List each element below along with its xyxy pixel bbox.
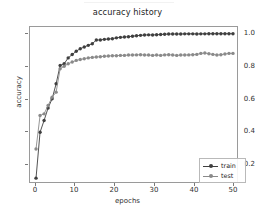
data-point-test xyxy=(155,53,158,56)
data-point-train xyxy=(99,38,102,41)
legend-item-train[interactable]: train xyxy=(203,161,242,171)
data-point-train xyxy=(147,33,150,36)
data-point-test xyxy=(135,53,138,56)
data-point-test xyxy=(95,55,98,58)
data-point-test xyxy=(42,112,45,115)
legend-item-test[interactable]: test xyxy=(203,171,242,181)
chart-figure: accuracy history 1.0 0.8 0.6 0.4 0.2 0 1… xyxy=(0,0,255,218)
data-point-test xyxy=(143,53,146,56)
xtick-label: 40 xyxy=(190,186,199,194)
data-point-train xyxy=(127,35,130,38)
data-point-test xyxy=(115,54,118,57)
data-point-test xyxy=(34,147,37,150)
data-point-train xyxy=(87,44,90,47)
data-point-train xyxy=(191,32,194,35)
data-point-train xyxy=(163,32,166,35)
ytick-label: 0.4 xyxy=(231,127,255,135)
data-point-train xyxy=(95,38,98,41)
data-point-train xyxy=(71,53,74,56)
data-point-test xyxy=(183,53,186,56)
data-point-test xyxy=(79,58,82,61)
data-point-test xyxy=(215,53,218,56)
data-point-train xyxy=(91,42,94,45)
data-point-train xyxy=(135,34,138,37)
data-point-train xyxy=(107,37,110,40)
xtick-label: 30 xyxy=(150,186,159,194)
data-point-test xyxy=(167,53,170,56)
data-point-test xyxy=(83,57,86,60)
legend-marker-test-icon xyxy=(203,171,218,181)
data-point-test xyxy=(147,53,150,56)
data-point-train xyxy=(123,35,126,38)
data-point-test xyxy=(103,55,106,58)
top-edge-artifact xyxy=(84,0,174,5)
ytick-label: 0.6 xyxy=(231,95,255,103)
data-point-train xyxy=(79,47,82,50)
data-point-train xyxy=(219,32,222,35)
data-point-test xyxy=(119,54,122,57)
data-point-train xyxy=(38,131,41,134)
xtick-label: 10 xyxy=(70,186,79,194)
xtick-mark xyxy=(233,183,234,186)
data-point-test xyxy=(75,59,78,62)
data-point-test xyxy=(123,54,126,57)
data-point-test xyxy=(231,52,234,55)
data-point-test xyxy=(223,52,226,55)
data-point-train xyxy=(171,32,174,35)
data-point-test xyxy=(107,54,110,57)
ytick-mark xyxy=(25,164,28,165)
data-point-test xyxy=(91,56,94,59)
data-point-test xyxy=(38,114,41,117)
data-point-test xyxy=(99,55,102,58)
y-axis-label: accuracy xyxy=(15,57,23,127)
legend-label-test: test xyxy=(221,171,233,181)
data-point-train xyxy=(203,32,206,35)
data-point-train xyxy=(207,32,210,35)
data-point-test xyxy=(203,51,206,54)
data-point-train xyxy=(103,38,106,41)
xtick-label: 20 xyxy=(110,186,119,194)
ytick-mark xyxy=(25,33,28,34)
data-point-test xyxy=(171,53,174,56)
data-point-test xyxy=(151,54,154,57)
data-point-train xyxy=(175,32,178,35)
data-point-test xyxy=(50,95,53,98)
data-point-test xyxy=(71,60,74,63)
data-point-train xyxy=(111,37,114,40)
data-point-test xyxy=(187,53,190,56)
chart-legend[interactable]: train test xyxy=(199,158,246,183)
data-point-train xyxy=(42,119,45,122)
xtick-label: 0 xyxy=(33,186,37,194)
data-point-test xyxy=(175,54,178,57)
data-point-test xyxy=(87,56,90,59)
series-line-test xyxy=(36,53,233,149)
data-point-train xyxy=(187,32,190,35)
data-point-train xyxy=(167,32,170,35)
data-point-test xyxy=(62,65,65,68)
data-point-train xyxy=(119,36,122,39)
data-point-train xyxy=(151,33,154,36)
data-point-test xyxy=(227,52,230,55)
data-point-train xyxy=(183,32,186,35)
data-point-test xyxy=(139,53,142,56)
data-point-test xyxy=(191,53,194,56)
x-axis-label: epochs xyxy=(0,197,255,205)
data-point-train xyxy=(66,56,69,59)
data-point-test xyxy=(111,54,114,57)
data-point-train xyxy=(58,64,61,67)
data-point-train xyxy=(115,36,118,39)
data-point-test xyxy=(211,53,214,56)
data-point-train xyxy=(83,45,86,48)
data-point-train xyxy=(179,32,182,35)
xtick-mark xyxy=(35,183,36,186)
data-point-test xyxy=(54,90,57,93)
data-point-test xyxy=(58,67,61,70)
xtick-mark xyxy=(114,183,115,186)
ytick-label: 1.0 xyxy=(231,29,255,37)
data-point-test xyxy=(219,53,222,56)
data-point-train xyxy=(215,32,218,35)
data-point-train xyxy=(159,33,162,36)
data-point-train xyxy=(75,50,78,53)
data-point-train xyxy=(199,32,202,35)
xtick-label: 50 xyxy=(229,186,238,194)
